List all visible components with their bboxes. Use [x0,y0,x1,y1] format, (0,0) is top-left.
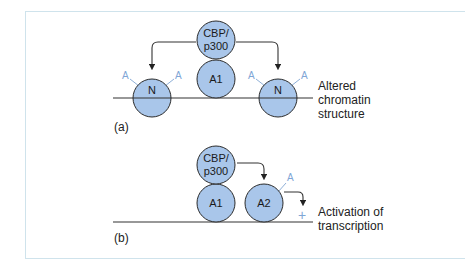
arrow-cbp-to-left-n [152,42,196,67]
outcome-label-line2: chromatin [318,93,371,107]
arrow-cbp-to-a2 [237,163,264,177]
nucleosome-right-label: N [274,84,282,96]
cbp-label-line2: p300 [204,165,228,177]
outcome-label-line2: transcription [318,219,383,233]
acetyl-bond [278,183,286,192]
activator-a2-label: A2 [257,197,270,209]
panel-b: A + A1 A2 CBP/ p300 Activation of transc… [113,146,384,245]
plus-sign: + [298,207,306,223]
panel-a-label: (a) [114,120,129,134]
nucleosome-left-label: N [148,84,156,96]
acetyl-label: A [287,172,294,183]
arrow-a2-to-activation [284,192,303,203]
outcome-label-line1: Altered [318,79,356,93]
panel-b-label: (b) [114,231,129,245]
acetyl-label: A [122,70,129,81]
cbp-label-line1: CBP/ [203,152,230,164]
outcome-label-line1: Activation of [318,205,384,219]
activator-a1-label: A1 [209,197,222,209]
cbp-label-line2: p300 [204,40,228,52]
acetyl-label: A [248,70,255,81]
activator-a1-label: A1 [209,73,222,85]
arrow-cbp-to-right-n [236,42,278,67]
cbp-label-line1: CBP/ [203,27,230,39]
acetyl-label: A [301,70,308,81]
acetyl-label: A [175,70,182,81]
panel-a: A A A A N N A1 CBP/ p300 Altered chromat… [113,21,371,134]
outcome-label-line3: structure [318,107,365,121]
